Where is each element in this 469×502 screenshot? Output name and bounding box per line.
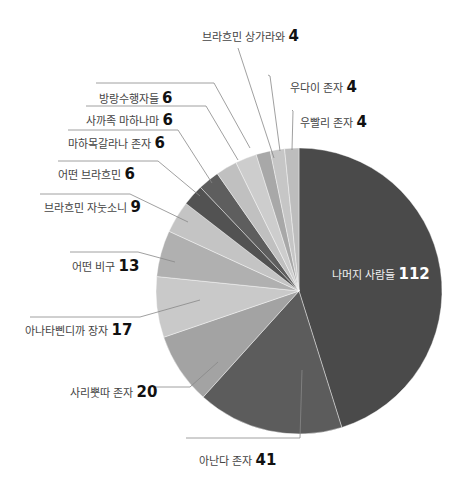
slice-label-name: 사까족 마하나마 xyxy=(86,115,160,128)
slice-label: 사까족 마하나마6 xyxy=(86,112,173,130)
slice-label: 마하목갈라나 존자6 xyxy=(68,135,165,153)
leader-line xyxy=(292,110,293,150)
slice-label-name: 브라흐민 자눗소니 xyxy=(44,202,128,215)
slice-label: 사리뿟따 존자20 xyxy=(70,384,157,402)
slice-label: 어떤 비구13 xyxy=(72,258,139,276)
slice-label: 아나타삔디까 장자17 xyxy=(25,322,132,340)
slice-label-name: 우빨리 존자 xyxy=(300,117,354,130)
slice-label-value: 41 xyxy=(256,451,277,469)
slice-label: 우빨리 존자4 xyxy=(300,114,367,132)
slice-label-name: 아난다 존자 xyxy=(199,455,253,468)
slice-label-name: 마하목갈라나 존자 xyxy=(68,138,152,151)
slice-label: 브라흐민 자눗소니9 xyxy=(44,199,141,217)
pie-chart xyxy=(0,0,469,502)
leader-line xyxy=(238,48,274,158)
leader-line xyxy=(268,75,280,151)
slice-label-value: 6 xyxy=(155,134,165,152)
slice-label-value: 9 xyxy=(131,198,141,216)
slice-label: 나머지 사람들112 xyxy=(332,266,430,284)
slice-label: 우다이 존자4 xyxy=(290,79,357,97)
slice-label-value: 4 xyxy=(347,78,357,96)
slice-label-name: 사리뿟따 존자 xyxy=(70,387,134,400)
slice-label-value: 4 xyxy=(357,113,367,131)
slice-label: 아난다 존자41 xyxy=(199,452,276,470)
slice-label-name: 브라흐민 상가라와 xyxy=(202,31,286,44)
slice-label-name: 우다이 존자 xyxy=(290,82,344,95)
slice-label-value: 17 xyxy=(112,321,133,339)
slice-label-value: 20 xyxy=(137,383,158,401)
slice-label-value: 6 xyxy=(125,165,135,183)
slice-label-name: 어떤 브라흐민 xyxy=(58,169,122,182)
slice-label-value: 13 xyxy=(119,257,140,275)
slice-label-name: 어떤 비구 xyxy=(72,261,116,274)
slice-label-value: 6 xyxy=(162,89,172,107)
slice-label-value: 6 xyxy=(163,111,173,129)
slice-label: 어떤 브라흐민6 xyxy=(58,166,135,184)
slice-label: 방랑수행자들6 xyxy=(99,90,172,108)
slice-label-value: 112 xyxy=(399,265,430,283)
slice-label-name: 방랑수행자들 xyxy=(99,93,159,106)
slice-label: 브라흐민 상가라와4 xyxy=(202,28,299,46)
slice-label-value: 4 xyxy=(289,27,299,45)
pie-slices xyxy=(156,148,442,434)
slice-label-name: 아나타삔디까 장자 xyxy=(25,325,109,338)
slice-label-name: 나머지 사람들 xyxy=(332,269,396,282)
